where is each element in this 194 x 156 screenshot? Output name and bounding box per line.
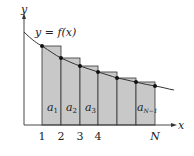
rect-4 [98,72,117,125]
tick-1: 1 [39,130,46,143]
x-tick-labels: 1 2 3 4 N [39,130,161,143]
curve-label: y = f(x) [34,26,76,39]
tick-3: 3 [77,130,84,143]
riemann-sum-diagram: y x y = f(x) 1 2 3 4 N a1 a2 a3 aN−1 [0,0,194,156]
x-axis-arrow-icon [171,123,177,127]
rect-3 [80,66,98,125]
tick-N: N [149,130,160,143]
rect-2 [61,58,80,125]
tick-4: 4 [95,130,102,143]
tick-2: 2 [58,130,65,143]
rect-5 [117,78,136,125]
x-axis-label: x [178,119,185,132]
y-axis-label: y [20,3,28,16]
